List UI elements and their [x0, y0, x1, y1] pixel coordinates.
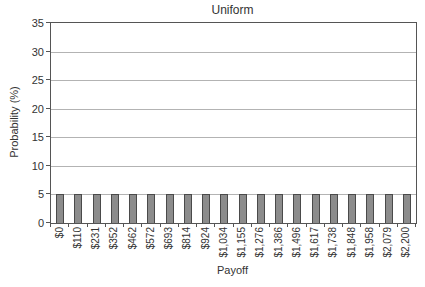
- x-tick-mark: [178, 224, 179, 227]
- x-tick-slot: $0: [50, 227, 68, 238]
- bar: [257, 194, 265, 223]
- bar: [56, 194, 64, 223]
- y-tick-label: 25: [0, 74, 44, 86]
- bar: [93, 194, 101, 223]
- y-tick-mark: [46, 136, 50, 137]
- x-tick-mark: [251, 224, 252, 227]
- x-tick-label: $1,034: [218, 227, 229, 258]
- x-tick-mark: [141, 224, 142, 227]
- bar-chart: Uniform Probability (%) $0$110$231$352$4…: [0, 0, 425, 287]
- gridline: [51, 137, 416, 138]
- x-axis-tick-labels: $0$110$231$352$462$572$693$814$924$1,034…: [50, 227, 415, 258]
- x-tick-label: $1,617: [309, 227, 320, 258]
- x-tick-mark: [68, 224, 69, 227]
- x-tick-label: $1,155: [236, 227, 247, 258]
- x-tick-slot: $231: [87, 227, 105, 249]
- x-tick-mark: [105, 224, 106, 227]
- gridline: [51, 166, 416, 167]
- x-tick-mark: [287, 224, 288, 227]
- bar: [293, 194, 301, 223]
- x-tick-slot: $1,738: [324, 227, 342, 258]
- x-tick-mark: [214, 224, 215, 227]
- bar: [220, 194, 228, 223]
- x-tick-slot: $1,155: [233, 227, 251, 258]
- x-tick-label: $572: [145, 227, 156, 249]
- x-tick-slot: $924: [196, 227, 214, 249]
- x-tick-mark: [233, 224, 234, 227]
- x-tick-slot: $352: [105, 227, 123, 249]
- x-tick-slot: $110: [68, 227, 86, 249]
- x-tick-label: $1,496: [291, 227, 302, 258]
- y-tick-label: 0: [0, 217, 44, 229]
- x-tick-label: $462: [127, 227, 138, 249]
- y-tick-mark: [46, 108, 50, 109]
- x-tick-label: $1,276: [254, 227, 265, 258]
- x-tick-label: $1,738: [327, 227, 338, 258]
- y-tick-label: 20: [0, 103, 44, 115]
- x-tick-mark: [360, 224, 361, 227]
- x-tick-label: $231: [90, 227, 101, 249]
- x-tick-mark: [269, 224, 270, 227]
- x-axis-label: Payoff: [50, 264, 415, 276]
- bar: [403, 194, 411, 223]
- x-tick-mark: [415, 224, 416, 227]
- x-tick-label: $352: [108, 227, 119, 249]
- bar: [147, 194, 155, 223]
- x-tick-mark: [306, 224, 307, 227]
- x-tick-label: $2,200: [400, 227, 411, 258]
- x-tick-slot: $814: [178, 227, 196, 249]
- gridline: [51, 52, 416, 53]
- gridline: [51, 194, 416, 195]
- bar: [348, 194, 356, 223]
- x-tick-mark: [379, 224, 380, 227]
- bar: [129, 194, 137, 223]
- bar: [239, 194, 247, 223]
- bar: [74, 194, 82, 223]
- x-tick-label: $110: [72, 227, 83, 249]
- x-tick-mark: [342, 224, 343, 227]
- bar: [275, 194, 283, 223]
- x-tick-slot: $1,617: [306, 227, 324, 258]
- y-tick-label: 10: [0, 160, 44, 172]
- x-tick-mark: [123, 224, 124, 227]
- x-tick-slot: $2,079: [379, 227, 397, 258]
- gridline: [51, 80, 416, 81]
- x-tick-label: $1,848: [346, 227, 357, 258]
- y-tick-label: 15: [0, 131, 44, 143]
- y-tick-label: 35: [0, 17, 44, 29]
- plot-area: [50, 22, 417, 224]
- bar: [202, 194, 210, 223]
- x-tick-label: $0: [54, 227, 65, 238]
- x-tick-slot: $572: [141, 227, 159, 249]
- x-tick-label: $1,386: [273, 227, 284, 258]
- chart-title: Uniform: [50, 3, 415, 17]
- bar: [366, 194, 374, 223]
- x-tick-mark: [324, 224, 325, 227]
- y-tick-label: 30: [0, 46, 44, 58]
- x-tick-label: $1,958: [364, 227, 375, 258]
- x-tick-slot: $1,276: [251, 227, 269, 258]
- x-tick-slot: $1,386: [269, 227, 287, 258]
- x-tick-slot: $2,200: [397, 227, 415, 258]
- x-tick-mark: [160, 224, 161, 227]
- x-tick-mark: [196, 224, 197, 227]
- x-tick-label: $693: [163, 227, 174, 249]
- y-tick-mark: [46, 22, 50, 23]
- x-tick-mark: [397, 224, 398, 227]
- bar: [184, 194, 192, 223]
- x-tick-mark: [50, 224, 51, 227]
- bar: [330, 194, 338, 223]
- x-tick-label: $814: [181, 227, 192, 249]
- y-tick-mark: [46, 79, 50, 80]
- x-tick-slot: $1,848: [342, 227, 360, 258]
- gridline: [51, 109, 416, 110]
- y-tick-mark: [46, 193, 50, 194]
- x-tick-slot: $1,034: [214, 227, 232, 258]
- x-tick-slot: $1,496: [287, 227, 305, 258]
- x-tick-mark: [87, 224, 88, 227]
- x-tick-slot: $1,958: [360, 227, 378, 258]
- y-tick-mark: [46, 165, 50, 166]
- x-tick-label: $924: [200, 227, 211, 249]
- bar: [111, 194, 119, 223]
- y-tick-mark: [46, 222, 50, 223]
